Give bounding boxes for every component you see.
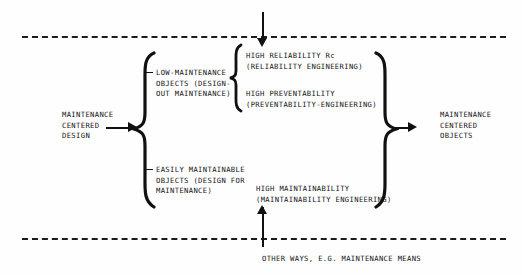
output-label-maintenance-centered-objects: MAINTENANCE CENTERED OBJECTS bbox=[440, 110, 491, 142]
input-label-other-ways: OTHER WAYS, E.G. MAINTENANCE MEANS bbox=[262, 254, 421, 265]
left-brace-icon bbox=[131, 50, 157, 210]
branch-tick-low-maintenance bbox=[144, 72, 153, 73]
attribute-label-high-reliability: HIGH RELIABILITY Rc (RELIABILITY ENGINEE… bbox=[246, 51, 363, 72]
attribute-label-high-maintainability: HIGH MAINTAINABILITY (MAINTAINABILITY EN… bbox=[256, 184, 392, 205]
arrow-down-icon bbox=[257, 38, 267, 47]
lower-boundary-line bbox=[22, 238, 506, 240]
branch-label-low-maintenance: LOW-MAINTENANCE OBJECTS (DESIGN- OUT MAI… bbox=[156, 68, 231, 100]
diagram-canvas: MAINTENANCE CENTERED DESIGN MAINTENANCE … bbox=[0, 0, 522, 275]
input-label-maintenance-centered-design: MAINTENANCE CENTERED DESIGN bbox=[62, 110, 113, 142]
arrow-up-icon bbox=[257, 205, 267, 214]
branch-tick-easily-maintainable bbox=[144, 169, 153, 170]
arrow-right-icon bbox=[408, 122, 417, 132]
attribute-label-high-preventability: HIGH PREVENTABILITY (PREVENTABILITY-ENGI… bbox=[246, 89, 377, 110]
branch-label-easily-maintainable: EASILY MAINTAINABLE OBJECTS (DESIGN FOR … bbox=[156, 165, 245, 197]
